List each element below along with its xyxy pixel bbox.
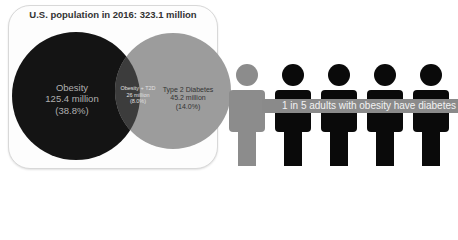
person-icon [413, 64, 449, 166]
obesity-label: Obesity 125.4 million (38.8%) [22, 82, 122, 116]
person-icon [321, 64, 357, 166]
overlap-label: Obesity + T2D 26 million (8.0%) [112, 85, 164, 105]
person-icon-highlighted [229, 64, 265, 166]
diabetes-label: Type 2 Diabetes 45.2 million (14.0%) [160, 86, 216, 111]
person-icon [367, 64, 403, 166]
caption-banner: 1 in 5 adults with obesity have diabetes [262, 99, 458, 113]
person-icon [275, 64, 311, 166]
